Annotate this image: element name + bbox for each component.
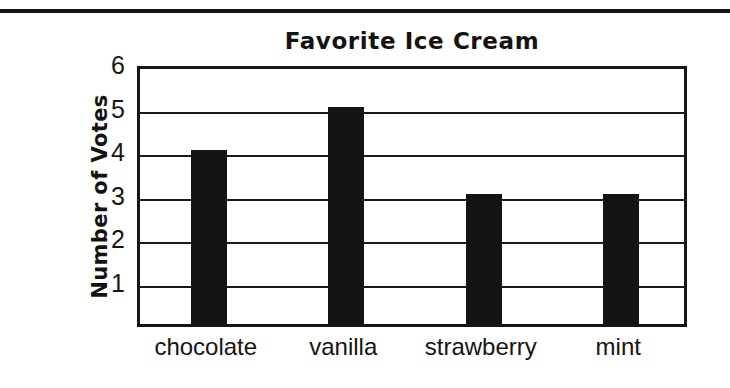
- x-tick-label: chocolate: [137, 332, 275, 362]
- bar: [603, 194, 639, 325]
- y-axis-tick-labels: 123456: [101, 66, 133, 327]
- x-tick-label: vanilla: [275, 332, 413, 362]
- y-tick-label: 6: [103, 53, 133, 78]
- chart-title: Favorite Ice Cream: [137, 28, 687, 54]
- y-tick-label: 1: [103, 271, 133, 296]
- y-tick-label: 4: [103, 140, 133, 165]
- bar: [191, 150, 227, 324]
- bar: [328, 107, 364, 325]
- gridline: [140, 112, 684, 114]
- y-tick-label: 5: [103, 97, 133, 122]
- x-tick-label: mint: [550, 332, 688, 362]
- y-tick-label: 3: [103, 184, 133, 209]
- page-divider-rule: [0, 9, 730, 13]
- x-axis-tick-labels: chocolatevanillastrawberrymint: [137, 332, 687, 368]
- x-tick-label: strawberry: [412, 332, 550, 362]
- y-tick-label: 2: [103, 227, 133, 252]
- bar: [466, 194, 502, 325]
- plot-area: [137, 66, 687, 327]
- worksheet-page: Favorite Ice Cream Number of Votes 12345…: [0, 0, 730, 388]
- plot-inner: [140, 69, 684, 324]
